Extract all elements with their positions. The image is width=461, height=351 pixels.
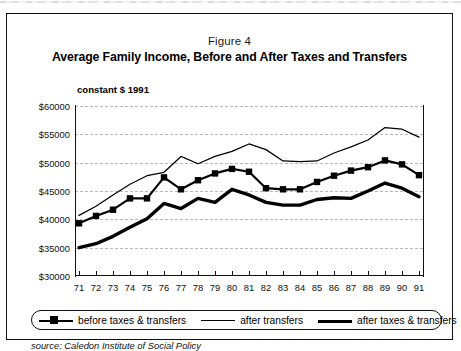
data-point-marker <box>212 170 218 176</box>
data-point-marker <box>110 207 116 213</box>
legend-label: before taxes & transfers <box>78 315 186 326</box>
units-label: constant $ 1991 <box>77 84 149 95</box>
x-axis-tick-label: 83 <box>278 282 288 293</box>
data-point-marker <box>76 220 82 226</box>
legend-item-before-taxes-and-transfers[interactable]: before taxes & transfers <box>39 315 186 326</box>
x-axis-tick-label: 79 <box>210 282 220 293</box>
series-line-after-taxes-transfers <box>79 183 419 248</box>
x-axis-tick-label: 82 <box>261 282 271 293</box>
data-point-marker <box>416 172 422 178</box>
data-point-marker <box>229 166 235 172</box>
legend-swatch-thick-line-icon <box>318 315 352 326</box>
data-point-marker <box>297 186 303 192</box>
figure-title: Average Family Income, Before and After … <box>7 50 452 64</box>
legend-label: after transfers <box>240 315 303 326</box>
chart-plot-area: $60000$55000$50000$45000$40000$35000$300… <box>75 106 423 276</box>
x-axis-tick-label: 89 <box>380 282 390 293</box>
data-point-marker <box>348 167 354 173</box>
x-axis-tick-label: 76 <box>159 282 169 293</box>
x-axis-tick-label: 90 <box>397 282 407 293</box>
scan-artifact-line <box>0 1 461 3</box>
source-note: source: Caledon Institute of Social Poli… <box>31 340 201 351</box>
x-axis-tick-label: 88 <box>363 282 373 293</box>
legend-item-after-taxes-and-transfers[interactable]: after taxes & transfers <box>318 315 457 326</box>
y-axis-tick-label: $45000 <box>39 186 70 197</box>
legend-label: after taxes & transfers <box>357 315 457 326</box>
x-axis-tick-label: 78 <box>193 282 203 293</box>
y-axis-tick-label: $30000 <box>39 271 70 282</box>
data-point-marker <box>195 177 201 183</box>
x-axis-tick-label: 84 <box>295 282 305 293</box>
x-axis-tick-label: 72 <box>91 282 101 293</box>
x-axis-tick-label: 73 <box>108 282 118 293</box>
data-point-marker <box>246 169 252 175</box>
chart-legend: before taxes & transfers after transfers… <box>31 310 442 330</box>
series-lines <box>75 106 423 276</box>
y-axis-tick-label: $35000 <box>39 242 70 253</box>
plot-right-border <box>423 105 424 277</box>
y-axis-tick-label: $50000 <box>39 157 70 168</box>
legend-item-after-transfers[interactable]: after transfers <box>201 315 303 326</box>
x-axis-tick-label: 74 <box>125 282 135 293</box>
data-point-marker <box>331 173 337 179</box>
y-axis-tick-label: $60000 <box>39 101 70 112</box>
x-axis-tick-label: 85 <box>312 282 322 293</box>
data-point-marker <box>280 186 286 192</box>
x-axis-tick-label: 71 <box>74 282 84 293</box>
data-point-marker <box>365 164 371 170</box>
y-axis-tick-label: $55000 <box>39 129 70 140</box>
x-axis-tick-label: 86 <box>329 282 339 293</box>
data-point-marker <box>314 179 320 185</box>
data-point-marker <box>127 195 133 201</box>
data-point-marker <box>161 174 167 180</box>
x-axis-tick-label: 81 <box>244 282 254 293</box>
data-point-marker <box>382 157 388 163</box>
data-point-marker <box>263 185 269 191</box>
x-axis-tick-label: 77 <box>176 282 186 293</box>
figure-number: Figure 4 <box>7 35 452 47</box>
x-axis-tick-label: 80 <box>227 282 237 293</box>
x-axis-tick-label: 91 <box>414 282 424 293</box>
data-point-marker <box>144 195 150 201</box>
data-point-marker <box>399 161 405 167</box>
x-axis-tick-label: 75 <box>142 282 152 293</box>
data-point-marker <box>178 186 184 192</box>
x-axis-tick-label: 87 <box>346 282 356 293</box>
legend-swatch-square-line-icon <box>39 315 73 326</box>
data-point-marker <box>93 213 99 219</box>
figure-frame: Figure 4 Average Family Income, Before a… <box>6 13 453 340</box>
y-axis-tick-label: $40000 <box>39 214 70 225</box>
legend-swatch-thin-line-icon <box>201 315 235 326</box>
